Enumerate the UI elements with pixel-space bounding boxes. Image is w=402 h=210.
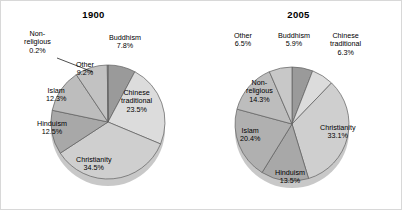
figure-canvas: 1900 Buddhism7.8%Chinesetraditional23.5%… xyxy=(0,0,402,210)
pie-slice-label: Non-religious14.3% xyxy=(246,79,273,104)
pie-slice-label-value: 12.3% xyxy=(46,95,66,103)
pie-slice-label-value: 0.2% xyxy=(24,47,51,55)
pie-slice-label: Other9.2% xyxy=(76,61,94,78)
pie-slice-label-value: 34.5% xyxy=(76,164,112,172)
pie-slice-label: Christianity34.5% xyxy=(76,156,112,173)
pie-slice-label-value: 7.8% xyxy=(109,42,141,50)
pie-slice-label-value: 14.3% xyxy=(246,96,273,104)
pie-slice-label-value: 13.5% xyxy=(275,177,305,185)
pie-slice-label: Buddhism7.8% xyxy=(109,34,141,51)
pie-slice-label: Hinduism13.5% xyxy=(275,169,305,186)
pie-slice-label: Islam12.3% xyxy=(46,87,66,104)
pie-slice-label-value: 20.4% xyxy=(240,135,260,143)
pie-slice-label-value: 9.2% xyxy=(76,69,94,77)
pie-slice-label: Christianity33.1% xyxy=(320,124,356,141)
pie-slice-label: Non-religious0.2% xyxy=(24,30,51,55)
pie-slice-label-value: 6.5% xyxy=(234,40,252,48)
pie-slice-label: Hinduism12.5% xyxy=(37,120,67,137)
pie-slice-label-value: 33.1% xyxy=(320,132,356,140)
pie-slice-label: Chinesetraditional6.3% xyxy=(330,32,361,57)
pie-slice-label-value: 23.5% xyxy=(121,106,152,114)
pie-slice-label-value: 6.3% xyxy=(330,49,361,57)
pie-slice-label: Islam20.4% xyxy=(240,127,260,144)
pie-slice-label: Other6.5% xyxy=(234,32,252,49)
pie-slice-label-value: 12.5% xyxy=(37,128,67,136)
pie-slice-label-value: 5.9% xyxy=(278,40,310,48)
pie-chart-1900: 1900 Buddhism7.8%Chinesetraditional23.5%… xyxy=(1,1,202,210)
pie-chart-2005: 2005 Buddhism5.9%Chinesetraditional6.3%C… xyxy=(202,1,402,210)
pie-slice-label: Buddhism5.9% xyxy=(278,32,310,49)
pie-slice-label: Chinesetraditional23.5% xyxy=(121,89,152,114)
